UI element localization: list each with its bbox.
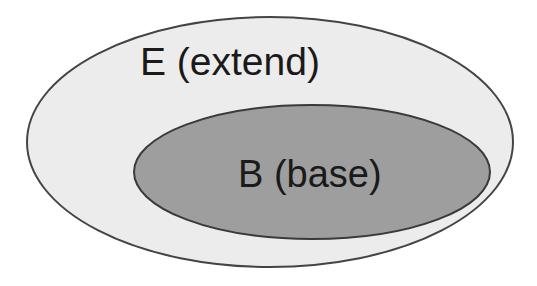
inner-set-label: B (base) [238,153,382,195]
nested-set-diagram: E (extend) B (base) [0,0,537,286]
outer-set-label: E (extend) [140,40,320,83]
